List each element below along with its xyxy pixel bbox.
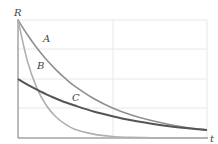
y-axis-label: R [13, 7, 22, 18]
decay-chart: R t A B C [0, 0, 218, 144]
curve-c-label: C [72, 92, 80, 103]
curve-a-label: A [42, 33, 50, 44]
x-axis-label: t [210, 133, 215, 144]
curve-b-label: B [36, 60, 44, 71]
